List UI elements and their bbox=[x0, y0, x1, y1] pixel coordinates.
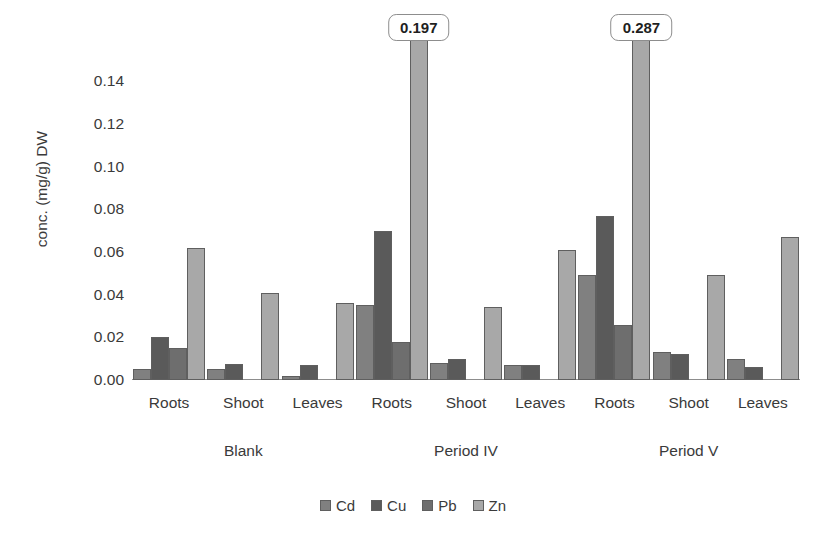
bar-cu bbox=[448, 359, 466, 380]
bar-cluster bbox=[503, 60, 577, 380]
value-callout: 0.287 bbox=[611, 14, 673, 41]
bar-group bbox=[577, 60, 800, 380]
value-callout: 0.197 bbox=[388, 14, 450, 41]
y-axis-title: conc. (mg/g) DW bbox=[33, 59, 51, 319]
legend-item: Cd bbox=[320, 497, 355, 514]
bar-cu bbox=[225, 364, 243, 380]
bar-cluster bbox=[726, 60, 800, 380]
bar-pb bbox=[169, 348, 187, 380]
bar-cd bbox=[133, 369, 151, 380]
bar-cluster bbox=[355, 60, 429, 380]
bar-cluster bbox=[206, 60, 280, 380]
bar-cluster bbox=[652, 60, 726, 380]
bar-zn bbox=[781, 237, 799, 380]
bar-zn bbox=[632, 34, 650, 380]
y-axis-tick-labels: 0.000.020.040.060.080.100.120.14 bbox=[68, 0, 124, 533]
x-axis-subgroup-label: Shoot bbox=[668, 394, 709, 412]
bar-cd bbox=[578, 275, 596, 380]
x-axis-group-label: Period IV bbox=[434, 442, 498, 460]
bar-cd bbox=[282, 376, 300, 380]
legend-swatch-icon bbox=[422, 500, 433, 511]
bar-cd bbox=[653, 352, 671, 380]
legend-item: Cu bbox=[371, 497, 406, 514]
y-axis-tick-label: 0.00 bbox=[68, 371, 124, 389]
bar-cd bbox=[430, 363, 448, 380]
bar-cd bbox=[727, 359, 745, 380]
y-axis-tick-label: 0.10 bbox=[68, 158, 124, 176]
y-axis-tick-label: 0.14 bbox=[68, 72, 124, 90]
bar-cu bbox=[522, 365, 540, 380]
bar-cu bbox=[596, 216, 614, 380]
x-axis-subgroup-label: Shoot bbox=[446, 394, 487, 412]
bar-zn bbox=[261, 293, 279, 380]
bar-cu bbox=[300, 365, 318, 380]
legend-label: Pb bbox=[438, 497, 456, 514]
bar-group bbox=[132, 60, 355, 380]
bar-cu bbox=[745, 367, 763, 380]
legend-label: Zn bbox=[489, 497, 507, 514]
bar-cd bbox=[207, 369, 225, 380]
y-axis-tick-label: 0.06 bbox=[68, 243, 124, 261]
legend-label: Cd bbox=[336, 497, 355, 514]
bar-chart: conc. (mg/g) DW 0.000.020.040.060.080.10… bbox=[0, 0, 826, 533]
legend-label: Cu bbox=[387, 497, 406, 514]
bar-group bbox=[355, 60, 578, 380]
chart-legend: CdCuPbZn bbox=[0, 497, 826, 514]
bar-cluster bbox=[132, 60, 206, 380]
x-axis-subgroup-label: Shoot bbox=[223, 394, 264, 412]
bar-cu bbox=[151, 337, 169, 380]
bar-cu bbox=[374, 231, 392, 380]
bar-cluster bbox=[429, 60, 503, 380]
x-axis-subgroup-label: Leaves bbox=[515, 394, 565, 412]
bar-cd bbox=[504, 365, 522, 380]
x-axis-group-label: Blank bbox=[224, 442, 263, 460]
legend-swatch-icon bbox=[320, 500, 331, 511]
x-axis-subgroup-label: Roots bbox=[149, 394, 190, 412]
bar-zn bbox=[558, 250, 576, 380]
bar-pb bbox=[614, 325, 632, 380]
bar-zn bbox=[410, 34, 428, 380]
bar-cu bbox=[671, 354, 689, 380]
bar-cluster bbox=[577, 60, 651, 380]
legend-swatch-icon bbox=[473, 500, 484, 511]
bar-zn bbox=[187, 248, 205, 380]
y-axis-tick-label: 0.12 bbox=[68, 115, 124, 133]
y-axis-tick-label: 0.08 bbox=[68, 200, 124, 218]
x-axis-subgroup-label: Roots bbox=[372, 394, 413, 412]
plot-area bbox=[132, 60, 800, 380]
legend-item: Zn bbox=[473, 497, 507, 514]
x-axis-subgroup-label: Leaves bbox=[738, 394, 788, 412]
legend-item: Pb bbox=[422, 497, 456, 514]
x-axis-subgroup-label: Roots bbox=[594, 394, 635, 412]
legend-swatch-icon bbox=[371, 500, 382, 511]
bar-cd bbox=[356, 305, 374, 380]
x-axis-subgroup-label: Leaves bbox=[293, 394, 343, 412]
x-axis-group-label: Period V bbox=[659, 442, 718, 460]
bar-pb bbox=[392, 342, 410, 380]
bar-cluster bbox=[280, 60, 354, 380]
bar-zn bbox=[707, 275, 725, 380]
y-axis-tick-label: 0.04 bbox=[68, 286, 124, 304]
bar-zn bbox=[484, 307, 502, 380]
y-axis-tick-label: 0.02 bbox=[68, 328, 124, 346]
bar-zn bbox=[336, 303, 354, 380]
